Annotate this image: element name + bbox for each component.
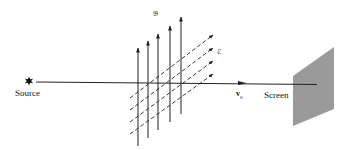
source-star-icon — [25, 77, 33, 86]
electric-field-arrows — [130, 35, 213, 134]
diagram-canvas — [0, 0, 347, 150]
velocity-subscript: 0 — [240, 95, 243, 100]
electric-field-label: ℰ — [217, 49, 221, 56]
magnetic-field-arrows — [138, 17, 181, 146]
screen-plate — [293, 47, 334, 126]
screen-label: Screen — [264, 91, 289, 100]
magnetic-field-label: 𝔅 — [153, 11, 158, 18]
beam-line — [36, 82, 317, 85]
source-label: Source — [15, 89, 40, 98]
velocity-arrowhead — [238, 81, 247, 85]
velocity-label: v0 — [236, 90, 243, 100]
